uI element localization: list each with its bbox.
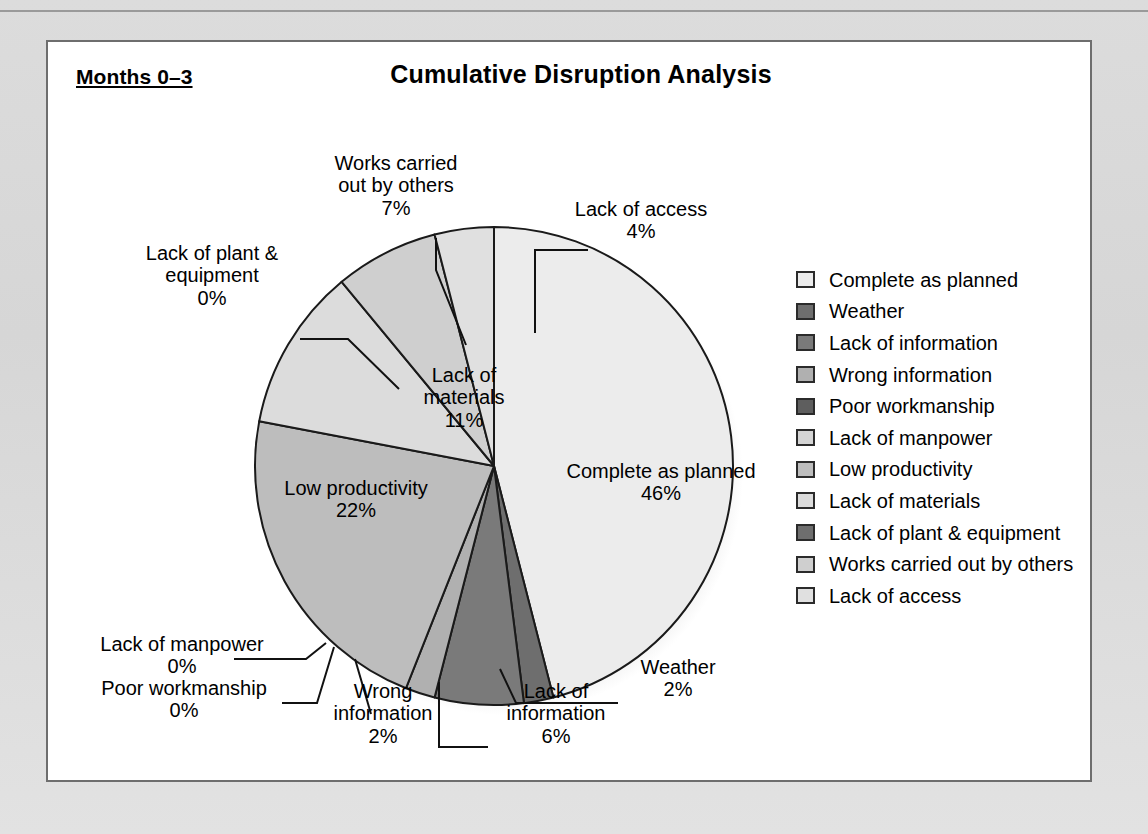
legend-item-label: Lack of manpower — [829, 428, 992, 448]
callout-works-carried-out-by-others: Works carried out by others 7% — [301, 152, 491, 219]
legend-swatch-icon — [796, 587, 815, 604]
legend-item[interactable]: Lack of materials — [796, 485, 1096, 517]
callout-lack-of-plant-equipment: Lack of plant & equipment 0% — [121, 242, 303, 309]
callout-lack-of-manpower: Lack of manpower 0% — [76, 633, 288, 678]
legend-item[interactable]: Poor workmanship — [796, 390, 1096, 422]
top-divider-rule — [0, 10, 1148, 12]
legend-swatch-icon — [796, 303, 815, 320]
legend-item[interactable]: Weather — [796, 296, 1096, 328]
callout-low-productivity: Low productivity 22% — [253, 477, 459, 522]
callout-poor-workmanship: Poor workmanship 0% — [68, 677, 300, 722]
legend-swatch-icon — [796, 429, 815, 446]
legend-item-label: Poor workmanship — [829, 396, 995, 416]
legend-item-label: Complete as planned — [829, 270, 1018, 290]
legend-swatch-icon — [796, 398, 815, 415]
legend-swatch-icon — [796, 461, 815, 478]
legend-item[interactable]: Works carried out by others — [796, 548, 1096, 580]
legend-item[interactable]: Lack of information — [796, 327, 1096, 359]
callout-lack-of-materials: Lack of materials 11% — [391, 364, 537, 431]
chart-panel: Months 0–3 Cumulative Disruption Analysi… — [46, 40, 1092, 782]
legend-item-label: Lack of access — [829, 586, 961, 606]
callout-lack-of-access: Lack of access 4% — [541, 198, 741, 243]
legend-item-label: Works carried out by others — [829, 554, 1073, 574]
legend-item[interactable]: Lack of manpower — [796, 422, 1096, 454]
legend-item-label: Wrong information — [829, 365, 992, 385]
legend-item[interactable]: Lack of access — [796, 580, 1096, 612]
legend-swatch-icon — [796, 556, 815, 573]
legend-item-label: Lack of information — [829, 333, 998, 353]
legend-item[interactable]: Wrong information — [796, 359, 1096, 391]
legend-item-label: Weather — [829, 301, 904, 321]
legend-item[interactable]: Low productivity — [796, 454, 1096, 486]
legend-item[interactable]: Complete as planned — [796, 264, 1096, 296]
legend-item-label: Lack of plant & equipment — [829, 523, 1060, 543]
page-background: Months 0–3 Cumulative Disruption Analysi… — [0, 0, 1148, 834]
legend-swatch-icon — [796, 492, 815, 509]
legend-item-label: Lack of materials — [829, 491, 980, 511]
legend-item-label: Low productivity — [829, 459, 972, 479]
callout-weather: Weather 2% — [606, 656, 750, 701]
legend-swatch-icon — [796, 271, 815, 288]
legend-swatch-icon — [796, 524, 815, 541]
callout-complete-as-planned: Complete as planned 46% — [546, 460, 776, 505]
legend-swatch-icon — [796, 334, 815, 351]
legend-item[interactable]: Lack of plant & equipment — [796, 517, 1096, 549]
legend-swatch-icon — [796, 366, 815, 383]
callout-wrong-information: Wrong information 2% — [308, 680, 458, 747]
legend: Complete as plannedWeatherLack of inform… — [796, 264, 1096, 612]
